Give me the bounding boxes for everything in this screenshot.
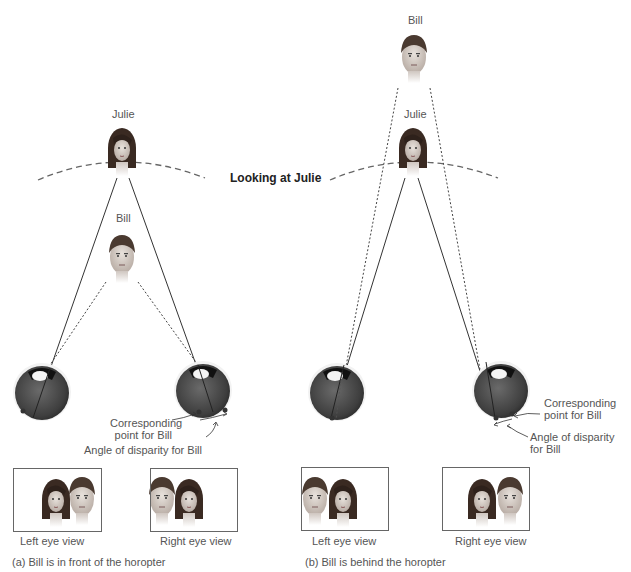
corresponding-line2-b: point for Bill: [544, 409, 601, 421]
panel-a-diagram: [13, 128, 232, 437]
right-eye-view-label-b: Right eye view: [455, 535, 527, 547]
disparity-arrow-a: [206, 423, 216, 437]
right-eye-b: [472, 361, 530, 419]
left-eye-view-box-b: [301, 467, 389, 531]
julie-head-b: [399, 128, 427, 176]
corresponding-line1-a: Corresponding: [110, 417, 182, 429]
right-eye-view-box-a: [150, 468, 238, 532]
julie-label-b: Julie: [404, 108, 427, 120]
left-eye-view-label-a: Left eye view: [20, 535, 84, 547]
disparity-label-b: Angle of disparity for Bill: [530, 431, 614, 455]
julie-head-a: [108, 128, 136, 176]
right-eye-view-label-a: Right eye view: [160, 535, 232, 547]
left-eye-view-label-b: Left eye view: [312, 535, 376, 547]
center-title: Looking at Julie: [230, 171, 321, 185]
bill-head-a: [109, 235, 135, 283]
corresponding-arrow-b: [515, 413, 540, 416]
julie-label-a: Julie: [112, 108, 135, 120]
corresponding-line1-b: Corresponding: [544, 397, 616, 409]
left-eye-view-box-a: [13, 468, 102, 532]
panel-a-caption: (a) Bill is in front of the horopter: [12, 556, 165, 568]
panel-b-diagram: [308, 35, 540, 437]
bill-label-a: Bill: [116, 212, 131, 224]
disparity-label-a: Angle of disparity for Bill: [84, 444, 202, 456]
corresponding-point-label-a: Corresponding point for Bill: [110, 417, 172, 441]
bill-label-b: Bill: [408, 14, 423, 26]
right-eye-view-box-b: [442, 467, 530, 531]
corresponding-line2-a: point for Bill: [115, 429, 172, 441]
disparity-line1-b: Angle of disparity: [530, 431, 614, 443]
bill-head-b: [401, 35, 427, 83]
panel-b-caption: (b) Bill is behind the horopter: [305, 556, 446, 568]
disparity-line2-b: for Bill: [530, 443, 561, 455]
corresponding-point-label-b: Corresponding point for Bill: [544, 397, 616, 421]
